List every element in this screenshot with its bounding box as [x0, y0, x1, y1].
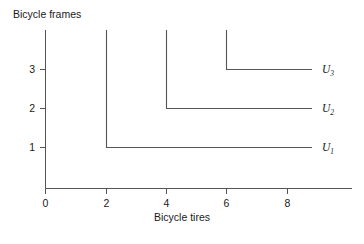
- indifference-curve-u1: [107, 30, 313, 148]
- y-tick-label-1: 1: [21, 141, 35, 153]
- x-tick-label-6: 6: [216, 197, 237, 209]
- y-tick-label-2: 2: [21, 102, 35, 114]
- x-axis-title: Bicycle tires: [0, 211, 364, 223]
- chart-figure: Bicycle frames Bicycle tires 1 2 3 0 2 4…: [0, 0, 364, 244]
- x-tick-label-4: 4: [156, 197, 177, 209]
- curve-label-u3: U3: [322, 63, 334, 78]
- x-tick-label-8: 8: [277, 197, 298, 209]
- curve-label-u2-subscript: 2: [330, 108, 334, 117]
- curve-label-u3-subscript: 3: [330, 69, 334, 78]
- y-axis-title: Bicycle frames: [13, 8, 81, 20]
- curve-label-u1: U1: [322, 141, 334, 156]
- x-tick-label-0: 0: [35, 197, 56, 209]
- y-tick-label-3: 3: [21, 63, 35, 75]
- curve-label-u2: U2: [322, 102, 334, 117]
- curve-label-u1-subscript: 1: [330, 147, 334, 156]
- indifference-curve-u3: [227, 30, 313, 70]
- x-tick-label-2: 2: [96, 197, 117, 209]
